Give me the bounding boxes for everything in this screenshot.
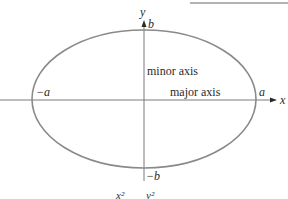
y-axis-label: y — [140, 6, 145, 18]
major-axis-label: major axis — [170, 86, 220, 98]
ellipse-diagram — [0, 0, 288, 199]
vertex-label-a: a — [259, 86, 265, 98]
x-axis-label: x — [280, 94, 285, 106]
equation-x-term: x² — [116, 190, 124, 199]
vertex-label-neg-b: −b — [146, 170, 160, 182]
vertex-label-neg-a: −a — [36, 86, 50, 98]
y-axis-arrow-icon — [142, 20, 147, 27]
x-axis-arrow-icon — [270, 98, 277, 103]
equation-y-term: y² — [146, 190, 154, 199]
minor-axis-label: minor axis — [147, 65, 198, 77]
ellipse-figure: y x b −b −a a minor axis major axis x² y… — [0, 0, 288, 199]
vertex-label-b: b — [148, 18, 154, 30]
